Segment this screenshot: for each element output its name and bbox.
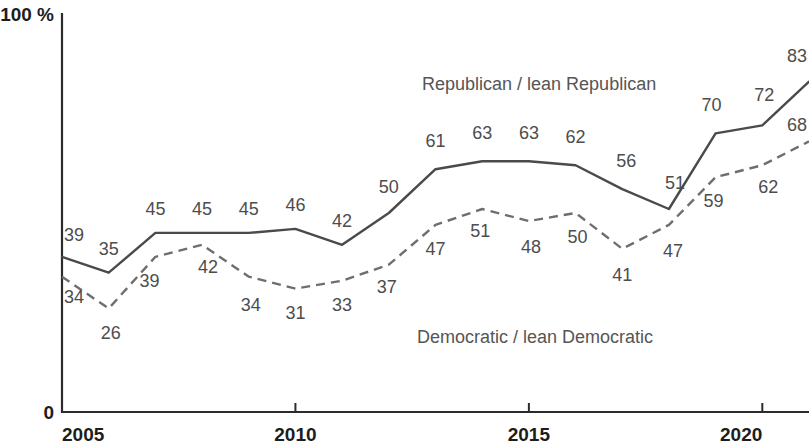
data-point-label: 50 [568, 227, 588, 247]
data-point-label: 39 [64, 225, 84, 245]
data-point-label: 47 [425, 239, 445, 259]
data-point-label: 62 [566, 127, 586, 147]
data-point-label: 62 [758, 177, 778, 197]
legend-label-democratic: Democratic / lean Democratic [417, 327, 653, 347]
data-point-label: 31 [285, 303, 305, 323]
data-point-label: 35 [99, 239, 119, 259]
chart-canvas: 100 % 0 2005201020152020 393545454546425… [0, 0, 809, 446]
data-point-label: 33 [332, 295, 352, 315]
data-point-label: 59 [704, 191, 724, 211]
x-axis-tick-label: 2010 [274, 424, 316, 445]
data-point-label: 42 [332, 211, 352, 231]
data-point-label: 63 [472, 123, 492, 143]
data-point-label: 26 [101, 323, 121, 343]
data-point-label: 34 [64, 287, 84, 307]
legend-label-republican: Republican / lean Republican [422, 74, 656, 94]
data-point-label: 48 [521, 237, 541, 257]
data-point-label: 68 [787, 115, 807, 135]
data-point-label: 61 [425, 131, 445, 151]
data-point-label: 37 [377, 277, 397, 297]
data-point-label: 70 [702, 95, 722, 115]
data-point-label: 51 [665, 173, 685, 193]
x-axis-tick-label: 2015 [508, 424, 551, 445]
data-point-label: 45 [145, 199, 165, 219]
data-point-label: 34 [241, 295, 261, 315]
data-point-label: 72 [754, 85, 774, 105]
data-point-label: 45 [239, 199, 259, 219]
x-axis-tick-label: 2020 [720, 424, 762, 445]
line-chart: 100 % 0 2005201020152020 393545454546425… [0, 0, 809, 446]
data-point-label: 51 [470, 221, 490, 241]
data-point-label: 83 [787, 46, 807, 66]
x-axis-tick-labels: 2005201020152020 [62, 424, 762, 445]
data-point-label: 50 [379, 177, 399, 197]
data-point-label: 39 [139, 271, 159, 291]
x-axis-tick-label: 2005 [62, 424, 105, 445]
y-axis-max-label: 100 % [0, 4, 54, 25]
data-point-label: 56 [616, 151, 636, 171]
data-point-label: 45 [192, 199, 212, 219]
data-point-label: 42 [198, 257, 218, 277]
data-point-label: 47 [663, 241, 683, 261]
series-line-democratic [62, 141, 809, 308]
data-point-label: 41 [612, 265, 632, 285]
data-point-label: 46 [285, 195, 305, 215]
x-axis-ticks [295, 403, 762, 412]
data-point-label: 63 [519, 123, 539, 143]
y-axis-min-label: 0 [43, 402, 54, 423]
